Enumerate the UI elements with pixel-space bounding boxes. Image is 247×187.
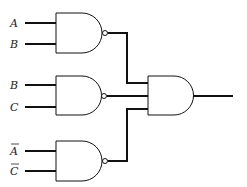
input-label-c: C [10, 101, 19, 114]
and-gate-output [148, 76, 194, 115]
inversion-bubble-icon [102, 94, 107, 99]
nand-gate-1 [56, 13, 108, 53]
input-label-c-not: C [10, 165, 19, 178]
input-label-b-2: B [9, 79, 18, 92]
logic-diagram: A B B C A C [0, 0, 247, 187]
input-label-b: B [9, 38, 18, 51]
input-label-a: A [9, 17, 18, 30]
inversion-bubble-icon [103, 159, 108, 164]
nand-gate-2 [56, 76, 107, 115]
nand-gate-3 [56, 141, 108, 181]
inversion-bubble-icon [103, 31, 108, 36]
input-wires [25, 23, 56, 171]
connecting-wires [107, 33, 148, 161]
input-label-a-not: A [9, 145, 18, 158]
